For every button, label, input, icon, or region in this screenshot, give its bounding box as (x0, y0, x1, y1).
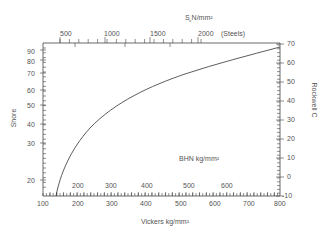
right-tick-label: -10 (282, 192, 292, 199)
right-axis-title: Rockwell C (311, 82, 318, 117)
top-tick-label: 1500 (150, 30, 166, 37)
right-tick-label: 60 (287, 59, 295, 66)
bottom-tick-label: 700 (243, 200, 255, 207)
top-tick-label: 1000 (104, 30, 120, 37)
bhn-axis-title: BHN kg/mm² (179, 155, 220, 163)
top-axis-subscript: u (189, 18, 191, 23)
top-tick-label: 500 (60, 30, 72, 37)
left-tick-label: 30 (27, 140, 35, 147)
right-tick-label: 70 (287, 40, 295, 47)
bottom-tick-label: 600 (209, 200, 221, 207)
top-tick-label: 2000 (198, 30, 214, 37)
right-tick-label: 0 (287, 173, 291, 180)
bhn-tick-label: 400 (141, 182, 153, 189)
bhn-tick-label: 300 (105, 182, 117, 189)
right-tick-label: 30 (287, 116, 295, 123)
left-tick-label: 20 (27, 177, 35, 184)
axis-ticks (40, 37, 284, 196)
bhn-tick-label: 200 (72, 182, 84, 189)
bhn-tick-label: 500 (183, 182, 195, 189)
bottom-tick-label: 400 (140, 200, 152, 207)
bottom-tick-label: 300 (106, 200, 118, 207)
bottom-tick-label: 100 (37, 200, 49, 207)
bhn-tick-label: 600 (221, 182, 233, 189)
right-tick-label: 50 (287, 78, 295, 85)
hardness-conversion-chart: 500 1000 1500 2000 (Steels) S N/mm² u 90… (0, 0, 328, 233)
right-tick-label: 10 (287, 154, 295, 161)
left-tick-label: 40 (27, 121, 35, 128)
right-tick-label: 20 (287, 135, 295, 142)
right-tick-label: 40 (287, 97, 295, 104)
bottom-tick-label: 500 (175, 200, 187, 207)
left-tick-label: 60 (27, 87, 35, 94)
left-tick-label: 90 (27, 48, 35, 55)
left-tick-label: 80 (27, 58, 35, 65)
left-tick-label: 70 (27, 70, 35, 77)
steels-note: (Steels) (221, 30, 245, 38)
left-tick-label: 50 (27, 102, 35, 109)
bottom-tick-label: 800 (274, 200, 286, 207)
left-axis-title: Shore (10, 109, 17, 128)
bottom-tick-label: 200 (72, 200, 84, 207)
hardness-curve (56, 47, 280, 196)
bottom-axis-title: Vickers kg/mm² (141, 218, 190, 226)
